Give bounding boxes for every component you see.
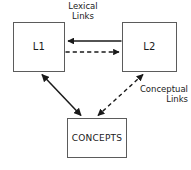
conceptual-links-label-line2: Links (112, 95, 188, 105)
node-l1[interactable]: L1 (13, 22, 65, 72)
edge-l1-concepts (42, 75, 81, 116)
node-concepts-label: CONCEPTS (72, 134, 122, 143)
conceptual-links-label: Conceptual Links (112, 85, 188, 104)
node-concepts[interactable]: CONCEPTS (67, 118, 127, 158)
node-l2-label: L2 (143, 42, 155, 52)
lexical-links-label-line2: Links (52, 12, 114, 22)
lexical-links-label: Lexical Links (52, 2, 114, 21)
node-l1-label: L1 (33, 42, 45, 52)
diagram-canvas: L1 L2 CONCEPTS Lexical Links Conceptual … (0, 0, 191, 170)
node-l2[interactable]: L2 (122, 22, 177, 72)
